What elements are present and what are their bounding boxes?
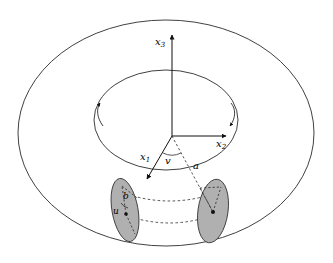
torus-diagram-canvas [0, 0, 333, 263]
left-disk-center-point [124, 212, 128, 216]
outer-torus-outline [18, 20, 314, 246]
right-disk-center-point [211, 210, 215, 214]
angle-v-label: v [165, 156, 171, 166]
tube-arc-upper-dashed [133, 196, 206, 201]
rotation-arrow-right-icon [230, 103, 235, 126]
x1-axis-label: x1 [140, 152, 150, 162]
rotation-arrow-left-icon [98, 103, 103, 126]
torus-diagram-figure: x3 x2 x1 v a b u [0, 0, 333, 263]
radius-b-label: b [123, 192, 129, 201]
x2-axis-label: x2 [216, 139, 226, 149]
tube-arc-lower-dashed [131, 217, 207, 223]
angle-u-label: u [113, 207, 119, 216]
x3-axis-label: x3 [155, 37, 165, 47]
distance-a-label: a [193, 161, 199, 171]
